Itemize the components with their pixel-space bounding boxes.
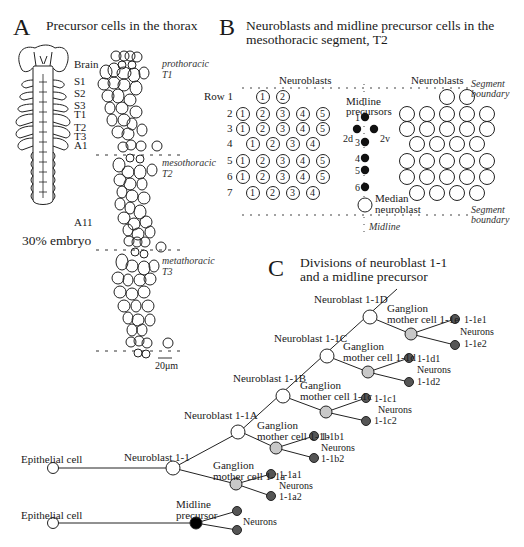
segment-t2-name: mesothoracic <box>162 158 216 168</box>
neuron-1-1b2: 1-1b2 <box>321 454 344 464</box>
neuroblast-number: 3 <box>290 188 295 198</box>
midline-num-1: 1 <box>355 113 360 123</box>
midline-num-2v: 2v <box>380 134 390 144</box>
neurons-label-a: Neurons <box>279 481 313 491</box>
row-label: 6 <box>227 171 233 182</box>
neuroblast-number: 5 <box>320 109 325 119</box>
neuron-1-1d2: 1-1d2 <box>417 377 440 387</box>
midline-num-4: 4 <box>355 154 360 164</box>
panel-a-letter: A <box>13 15 30 39</box>
neuroblast-number: 4 <box>300 109 305 119</box>
panel-b-title-line2: mesothoracic segment, T2 <box>246 33 388 47</box>
neuroblast-number: 1 <box>240 124 245 134</box>
label-a1: A1 <box>74 140 87 151</box>
segment-boundary-top-2: boundary <box>471 89 509 99</box>
segment-boundaries-a <box>96 155 186 351</box>
precursor-cell-column <box>98 51 173 358</box>
neurons-label-c: Neurons <box>378 405 412 415</box>
label-s2: S2 <box>74 88 86 99</box>
row-label: 3 <box>227 123 233 134</box>
segment-t2-code: T2 <box>162 169 173 179</box>
gmc-1-1a-label-2: mother cell 1-1a <box>213 471 285 482</box>
segment-t1-code: T1 <box>162 70 173 80</box>
row-label: Row 1 <box>204 91 233 102</box>
midline-precursors <box>353 113 378 191</box>
midline-num-3: 3 <box>355 138 360 148</box>
neuroblast-grid-right <box>400 90 495 201</box>
neuroblasts-header-left: Neuroblasts <box>279 75 332 86</box>
median-neuroblast-label-2: neuroblast <box>375 204 421 215</box>
neuroblast-number: 3 <box>280 156 285 166</box>
neuroblast-number: 2 <box>260 156 265 166</box>
midline-num-6: 6 <box>355 183 360 193</box>
midline-neurons-label: Neurons <box>243 517 277 527</box>
neuroblast-number: 2 <box>280 92 285 102</box>
embryo-caption: 30% embryo <box>22 234 91 248</box>
neuroblast-number: 5 <box>320 156 325 166</box>
neuroblast-number: 4 <box>310 188 315 198</box>
panel-b-letter: B <box>219 15 235 39</box>
neuroblast-1-1b-label: Neuroblast 1-1B <box>233 373 306 384</box>
segment-t3-code: T3 <box>162 267 173 277</box>
neuroblast-number: 3 <box>280 109 285 119</box>
label-a11: A11 <box>74 217 93 228</box>
midline-precursor-label-2: precursor <box>176 510 218 521</box>
neuroblast-number: 3 <box>280 124 285 134</box>
embryo-drawing <box>16 45 70 205</box>
neurons-label-b: Neurons <box>321 443 355 453</box>
label-s1: S1 <box>74 76 86 87</box>
neuroblast-number: 3 <box>290 139 295 149</box>
gmc-1-1c-label-2: mother cell 1-1c <box>300 391 372 402</box>
neuroblast-number: 1 <box>240 109 245 119</box>
panel-a-title: Precursor cells in the thorax <box>46 19 197 33</box>
neuroblast-number: 5 <box>320 124 325 134</box>
neuroblast-1-1-label: Neuroblast 1-1 <box>124 452 190 463</box>
neuron-1-1a2: 1-1a2 <box>279 492 302 502</box>
neuroblast-number: 2 <box>260 109 265 119</box>
neuroblast-1-1a-label: Neuroblast 1-1A <box>184 410 258 421</box>
lineage-nodes <box>48 310 460 535</box>
neuroblast-1-1c-label: Neuroblast 1-1C <box>274 333 347 344</box>
panel-b-title-line1: Neuroblasts and midline precursor cells … <box>246 19 494 33</box>
neuroblasts-header-right: Neuroblasts <box>411 75 464 86</box>
neuroblast-number: 4 <box>300 156 305 166</box>
row-label: 4 <box>227 138 233 149</box>
neuron-1-1d1: 1-1d1 <box>417 354 440 364</box>
label-brain: Brain <box>74 59 98 70</box>
neuron-1-1a1: 1-1a1 <box>279 470 302 480</box>
row-label: 7 <box>227 187 233 198</box>
row-label: 2 <box>227 108 233 119</box>
neuron-1-1c2: 1-1c2 <box>374 416 397 426</box>
neuroblast-number: 2 <box>270 188 275 198</box>
neuron-1-1c1: 1-1c1 <box>374 394 397 404</box>
neuroblast-number: 4 <box>300 124 305 134</box>
scale-bar-label: 20μm <box>155 361 178 371</box>
segment-t1-name: prothoracic <box>162 59 209 69</box>
epithelial-cell-label-1: Epithelial cell <box>21 454 82 465</box>
neuroblast-number: 4 <box>310 139 315 149</box>
neuron-1-1e1: 1-1e1 <box>464 315 487 325</box>
panel-c-title-line2: and a midline precursor <box>300 270 428 284</box>
segment-t3-name: metathoracic <box>162 256 215 266</box>
midline-num-5: 5 <box>355 166 360 176</box>
panel-c-letter: C <box>268 256 284 280</box>
epithelial-cell-label-2: Epithelial cell <box>21 510 82 521</box>
neuroblast-number: 3 <box>280 172 285 182</box>
neuron-1-1e2: 1-1e2 <box>464 339 487 349</box>
gmc-1-1d-label-2: mother cell 1-1d <box>343 352 416 363</box>
segment-boundary-bottom-2: boundary <box>471 215 509 225</box>
label-t1: T1 <box>74 109 86 120</box>
neuroblast-number: 1 <box>250 139 255 149</box>
neurons-label-e: Neurons <box>460 327 494 337</box>
gmc-1-1b-label-2: mother cell 1-1b <box>257 431 330 442</box>
neuroblast-number: 5 <box>320 172 325 182</box>
neuroblast-number: 2 <box>270 139 275 149</box>
gmc-1-1e-label-2: mother cell 1-1e <box>387 314 459 325</box>
neuron-1-1b1: 1-1b1 <box>321 432 344 442</box>
neuroblast-number: 2 <box>260 172 265 182</box>
panel-c-title-line1: Divisions of neuroblast 1-1 <box>300 256 447 270</box>
neuroblast-number: 1 <box>240 172 245 182</box>
neuroblast-number: 2 <box>260 124 265 134</box>
neuroblast-number: 4 <box>300 172 305 182</box>
neuroblast-number: 1 <box>250 188 255 198</box>
